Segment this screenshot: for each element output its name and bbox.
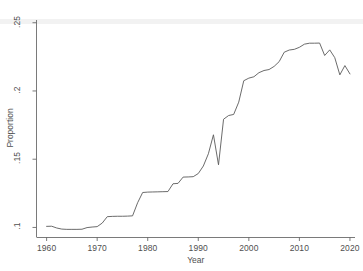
y-tick-label: .2 — [12, 78, 22, 102]
line-chart-plot — [0, 0, 363, 271]
chart-figure: .1.15.2.25 1960197019801990200020102020 … — [0, 0, 363, 271]
y-tick-label: .25 — [12, 10, 22, 34]
x-tick-label: 1990 — [185, 243, 211, 253]
x-tick-label: 1970 — [84, 243, 110, 253]
x-tick-label: 2020 — [337, 243, 363, 253]
x-tick-label: 1960 — [34, 243, 60, 253]
x-axis-title: Year — [171, 255, 221, 265]
y-tick-marks — [33, 23, 37, 228]
y-tick-label: .1 — [12, 214, 22, 238]
series-line-proportion — [47, 43, 350, 229]
x-tick-label: 2000 — [236, 243, 262, 253]
x-tick-label: 1980 — [135, 243, 161, 253]
x-tick-label: 2010 — [286, 243, 312, 253]
y-axis-title: Proportion — [5, 103, 15, 153]
